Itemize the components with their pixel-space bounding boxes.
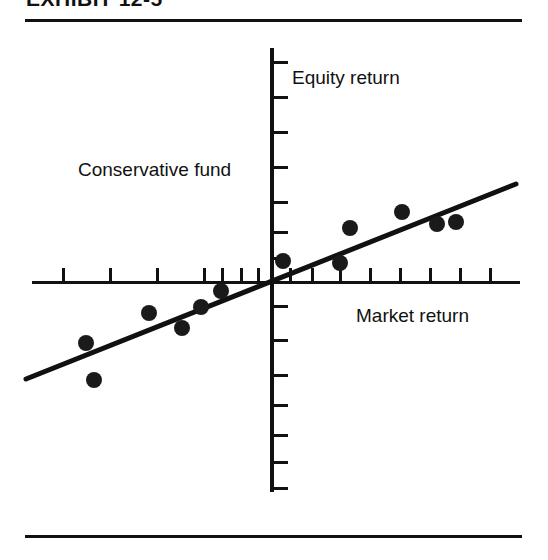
exhibit-figure: EXHIBIT 12-5 [0, 0, 548, 560]
x-axis-label: Market return [356, 305, 469, 327]
data-point [86, 372, 102, 388]
axes [32, 48, 520, 492]
bottom-rule [25, 535, 522, 538]
data-point [78, 335, 94, 351]
data-point [332, 255, 348, 271]
scatter-plot: Equity return Market return Conservative… [0, 20, 548, 535]
data-point [141, 305, 157, 321]
data-point [394, 204, 410, 220]
data-point [275, 253, 291, 269]
series-annotation: Conservative fund [78, 159, 231, 181]
data-point [448, 214, 464, 230]
data-point [174, 320, 190, 336]
data-point [213, 283, 229, 299]
data-point [342, 220, 358, 236]
exhibit-title: EXHIBIT 12-5 [26, 0, 163, 11]
y-axis-label: Equity return [292, 67, 400, 89]
data-point [429, 216, 445, 232]
data-point [193, 299, 209, 315]
